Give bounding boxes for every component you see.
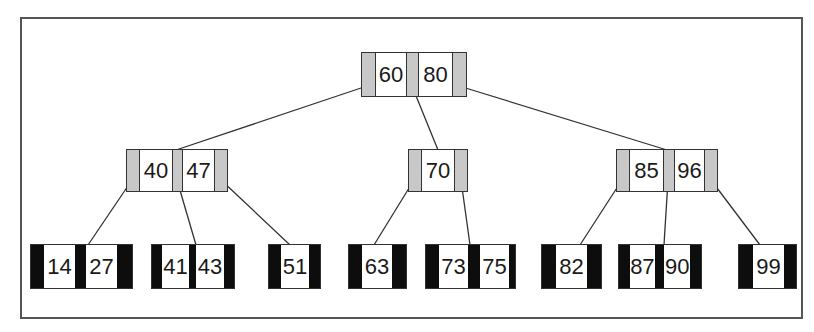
key-cell: 80	[419, 53, 452, 96]
key-cell: 82	[556, 245, 588, 288]
key-cell: 70	[422, 150, 455, 191]
leaf-node-87-90: 87 90	[618, 244, 702, 289]
key-cell: 75	[480, 245, 509, 288]
edge-node-85-96-to-leaf-99	[711, 180, 760, 245]
edge-node-40-47-to-leaf-51	[221, 180, 290, 245]
leaf-node-73-75: 73 75	[425, 244, 516, 289]
key-cell: 87	[630, 245, 655, 288]
pointer-cell	[75, 245, 86, 288]
key-cell: 85	[630, 150, 663, 191]
pointer-cell	[152, 245, 162, 288]
pointer-cell	[409, 150, 422, 191]
pointer-cell	[619, 245, 630, 288]
pointer-cell	[663, 150, 675, 191]
key-cell: 43	[196, 245, 223, 288]
pointer-cell	[454, 150, 467, 191]
pointer-cell	[426, 245, 439, 288]
pointer-cell	[224, 245, 234, 288]
pointer-cell	[690, 245, 701, 288]
pointer-cell	[655, 245, 664, 288]
leaf-node-51: 51	[268, 244, 321, 289]
pointer-cell	[468, 245, 480, 288]
pointer-cell	[617, 150, 630, 191]
key-cell: 40	[140, 150, 172, 191]
pointer-cell	[269, 245, 281, 288]
key-cell: 47	[183, 150, 214, 191]
leaf-node-41-43: 41 43	[151, 244, 235, 289]
key-cell: 41	[162, 245, 188, 288]
pointer-cell	[542, 245, 556, 288]
internal-node-85-96: 85 96	[616, 149, 718, 192]
pointer-cell	[739, 245, 753, 288]
pointer-cell	[704, 150, 717, 191]
pointer-cell	[172, 150, 183, 191]
key-cell: 73	[439, 245, 468, 288]
pointer-cell	[362, 53, 376, 96]
key-cell: 14	[44, 245, 75, 288]
pointer-cell	[117, 245, 132, 288]
key-cell: 51	[281, 245, 310, 288]
edge-root-to-node-40-47	[176, 86, 367, 150]
key-cell: 27	[86, 245, 117, 288]
pointer-cell	[406, 53, 419, 96]
pointer-cell	[784, 245, 796, 288]
pointer-cell	[509, 245, 515, 288]
pointer-cell	[587, 245, 601, 288]
pointer-cell	[189, 245, 197, 288]
internal-node-70: 70	[408, 149, 468, 192]
key-cell: 96	[675, 150, 704, 191]
edge-root-to-node-85-96	[459, 86, 667, 150]
pointer-cell	[452, 53, 466, 96]
leaf-node-63: 63	[348, 244, 407, 289]
pointer-cell	[309, 245, 320, 288]
pointer-cell	[31, 245, 44, 288]
leaf-node-99: 99	[738, 244, 797, 289]
leaf-node-82: 82	[541, 244, 602, 289]
key-cell: 99	[753, 245, 785, 288]
leaf-node-14-27: 14 27	[30, 244, 133, 289]
key-cell: 60	[376, 53, 406, 96]
root-node: 60 80	[361, 52, 467, 97]
key-cell: 90	[664, 245, 690, 288]
internal-node-40-47: 40 47	[126, 149, 228, 192]
pointer-cell	[127, 150, 140, 191]
pointer-cell	[214, 150, 227, 191]
key-cell: 63	[362, 245, 393, 288]
pointer-cell	[349, 245, 362, 288]
pointer-cell	[392, 245, 406, 288]
